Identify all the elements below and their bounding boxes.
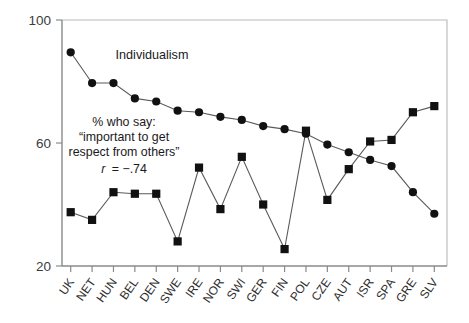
data-point-fin <box>280 125 288 133</box>
data-point-net <box>88 216 96 224</box>
data-point-den <box>152 190 160 198</box>
data-point-hun <box>109 79 117 87</box>
data-point-isr <box>366 156 374 164</box>
data-point-swe <box>174 107 182 115</box>
data-point-nor <box>216 113 224 121</box>
data-point-bel <box>131 190 139 198</box>
y-tick-label: 20 <box>36 259 51 274</box>
data-point-nor <box>216 205 224 213</box>
x-tick-label-nor: NOR <box>200 275 227 305</box>
data-point-swi <box>238 153 246 161</box>
data-point-slv <box>430 210 438 218</box>
data-point-den <box>152 97 160 105</box>
data-point-aut <box>345 165 353 173</box>
note-line-1: % who say: <box>92 115 155 129</box>
y-tick-label: 100 <box>28 13 51 28</box>
data-point-gre <box>409 188 417 196</box>
x-tick-label-aut: AUT <box>330 275 356 303</box>
y-tick-label: 60 <box>36 136 51 151</box>
correlation-symbol: r <box>101 162 106 176</box>
data-point-net <box>88 79 96 87</box>
data-point-ire <box>195 108 203 116</box>
data-point-bel <box>131 94 139 102</box>
individualism-annotation: Individualism <box>116 48 189 62</box>
chart-container: 2060100 UKNETHUNBELDENSWEIRENORSWIGERFIN… <box>0 0 469 323</box>
data-point-isr <box>366 137 374 145</box>
x-tick-label-slv: SLV <box>417 276 441 302</box>
correlation-annotation: r = −.74 <box>101 162 147 176</box>
data-point-ger <box>259 200 267 208</box>
y-axis-ticks: 2060100 <box>28 13 62 274</box>
note-line-3: respect from others” <box>69 145 180 159</box>
note-line-2: “important to get <box>79 130 170 144</box>
x-tick-label-gre: GRE <box>393 276 419 305</box>
data-point-ger <box>259 122 267 130</box>
data-point-cze <box>323 196 331 204</box>
data-point-uk <box>67 208 75 216</box>
data-point-ire <box>195 164 203 172</box>
data-point-pol <box>302 127 310 135</box>
data-point-aut <box>345 148 353 156</box>
x-tick-label-pol: POL <box>287 275 312 303</box>
data-point-slv <box>430 102 438 110</box>
correlation-value: = −.74 <box>112 162 147 176</box>
x-tick-label-hun: HUN <box>94 276 120 305</box>
x-axis-ticks <box>71 266 435 272</box>
individualism-respect-line-chart: 2060100 UKNETHUNBELDENSWEIRENORSWIGERFIN… <box>0 0 469 323</box>
data-point-gre <box>409 108 417 116</box>
data-point-swi <box>238 116 246 124</box>
data-point-spa <box>387 162 395 170</box>
data-point-swe <box>174 237 182 245</box>
data-point-spa <box>387 136 395 144</box>
x-tick-label-cze: CZE <box>309 276 334 304</box>
data-point-cze <box>323 140 331 148</box>
data-point-hun <box>109 188 117 196</box>
x-tick-label-isr: ISR <box>354 275 377 300</box>
x-tick-label-swe: SWE <box>157 276 184 306</box>
data-point-uk <box>67 48 75 56</box>
x-axis-tick-labels: UKNETHUNBELDENSWEIRENORSWIGERFINPOLCZEAU… <box>56 275 441 306</box>
data-point-fin <box>280 245 288 253</box>
x-tick-label-ger: GER <box>243 275 270 305</box>
